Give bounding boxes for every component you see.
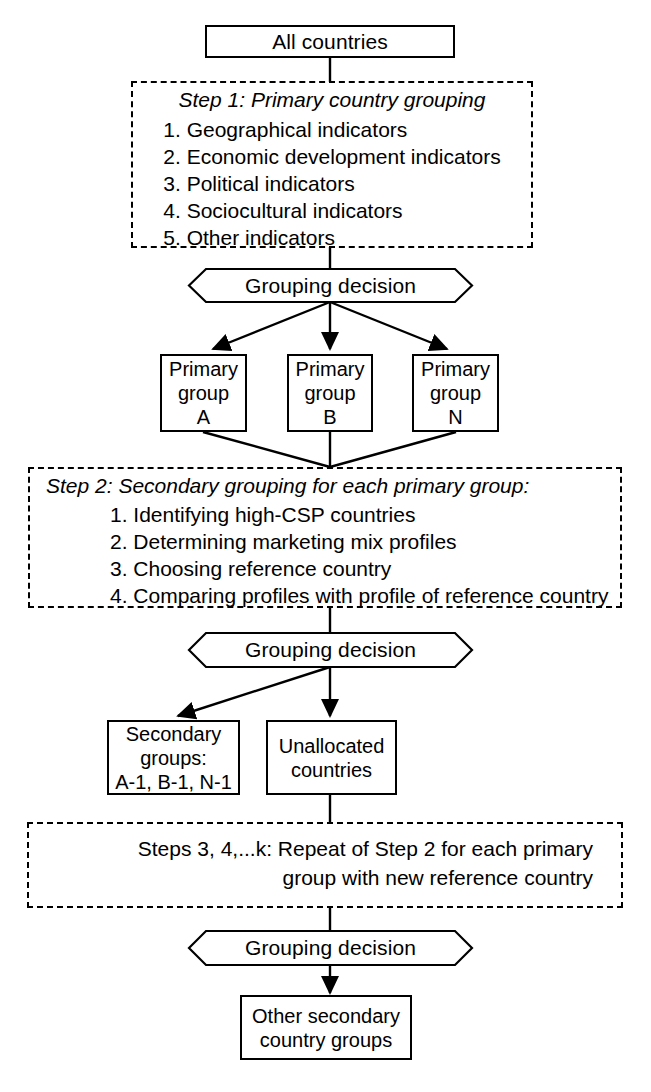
connector-decision1-to-groupN <box>330 302 447 349</box>
other-secondary-line1: Other secondary <box>252 1004 400 1028</box>
node-grouping-decision-2[interactable]: Grouping decision <box>189 633 472 667</box>
node-grouping-decision-1[interactable]: Grouping decision <box>189 269 472 302</box>
node-secondary-groups[interactable]: Secondary groups: A-1, B-1, N-1 <box>107 720 240 795</box>
primary-group-n-line2: group <box>430 381 481 405</box>
step1-list: 1. Geographical indicators 2. Economic d… <box>163 116 500 251</box>
step1-content: Step 1: Primary country grouping 1. Geog… <box>131 86 533 251</box>
other-secondary-line2: country groups <box>260 1028 392 1052</box>
connector-decision1-to-groupA <box>213 302 330 349</box>
connector-groupN-to-step2 <box>330 432 456 467</box>
node-other-secondary-country-groups[interactable]: Other secondary country groups <box>240 995 412 1060</box>
primary-group-n-line3: N <box>448 405 462 429</box>
unallocated-line2: countries <box>291 758 372 782</box>
node-primary-group-b[interactable]: Primary group B <box>287 354 373 432</box>
secondary-groups-line2: groups: <box>140 746 207 770</box>
node-grouping-decision-3[interactable]: Grouping decision <box>189 931 472 965</box>
step2-content: Step 2: Secondary grouping for each prim… <box>46 472 606 609</box>
step2-item: 1. Identifying high-CSP countries <box>110 501 608 528</box>
grouping-decision-3-label: Grouping decision <box>245 935 416 961</box>
primary-group-b-line1: Primary <box>296 357 365 381</box>
steps-repeat-line2: group with new reference country <box>27 863 593 892</box>
connector-decision2-to-secondary <box>178 667 330 716</box>
step2-title: Step 2: Secondary grouping for each prim… <box>46 472 529 499</box>
connector-groupA-to-step2 <box>203 432 330 467</box>
step2-item: 4. Comparing profiles with profile of re… <box>110 582 608 609</box>
node-unallocated-countries[interactable]: Unallocated countries <box>266 720 397 795</box>
secondary-groups-line3: A-1, B-1, N-1 <box>115 770 232 794</box>
all-countries-label: All countries <box>272 29 388 55</box>
grouping-decision-2-label: Grouping decision <box>245 637 416 663</box>
step2-list: 1. Identifying high-CSP countries 2. Det… <box>46 501 608 609</box>
steps-repeat-line1: Steps 3, 4,...k: Repeat of Step 2 for ea… <box>27 834 593 863</box>
step1-item: 2. Economic development indicators <box>163 143 500 170</box>
grouping-decision-1-label: Grouping decision <box>245 273 416 299</box>
primary-group-b-line2: group <box>304 381 355 405</box>
step1-item: 5. Other indicators <box>163 224 500 251</box>
primary-group-a-line2: group <box>178 381 229 405</box>
primary-group-a-line1: Primary <box>169 357 238 381</box>
primary-group-a-line3: A <box>197 405 210 429</box>
step1-item: 3. Political indicators <box>163 170 500 197</box>
node-primary-group-n[interactable]: Primary group N <box>412 354 499 432</box>
step2-item: 2. Determining marketing mix profiles <box>110 528 608 555</box>
step1-title: Step 1: Primary country grouping <box>179 86 486 113</box>
steps-repeat-content: Steps 3, 4,...k: Repeat of Step 2 for ea… <box>27 834 593 892</box>
primary-group-b-line3: B <box>323 405 336 429</box>
secondary-groups-line1: Secondary <box>126 722 222 746</box>
node-all-countries[interactable]: All countries <box>205 25 455 58</box>
step1-item: 1. Geographical indicators <box>163 116 500 143</box>
primary-group-n-line1: Primary <box>421 357 490 381</box>
step1-item: 4. Sociocultural indicators <box>163 197 500 224</box>
unallocated-line1: Unallocated <box>279 734 385 758</box>
step2-item: 3. Choosing reference country <box>110 555 608 582</box>
flowchart-canvas: All countries Step 1: Primary country gr… <box>0 0 651 1092</box>
node-primary-group-a[interactable]: Primary group A <box>160 354 247 432</box>
